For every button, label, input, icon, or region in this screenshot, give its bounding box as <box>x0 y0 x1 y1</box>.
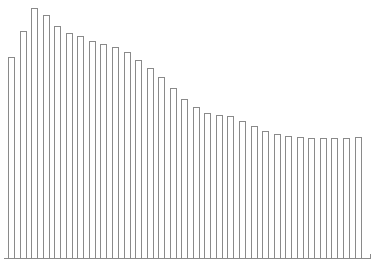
bar <box>20 31 27 258</box>
bar <box>297 137 304 258</box>
bar <box>43 15 50 258</box>
bar <box>331 138 338 258</box>
bar <box>251 126 258 258</box>
bar <box>8 57 15 258</box>
bar <box>355 137 362 258</box>
bar <box>77 36 84 258</box>
bar <box>54 26 61 258</box>
bar <box>308 138 315 258</box>
x-axis-baseline <box>4 258 370 259</box>
bar <box>193 107 200 258</box>
bar <box>100 44 107 258</box>
bar <box>66 33 73 258</box>
bar <box>204 113 211 258</box>
bar <box>285 136 292 258</box>
bar <box>112 47 119 258</box>
bar <box>262 131 269 258</box>
bar <box>31 8 38 258</box>
bar <box>320 138 327 258</box>
bar <box>274 134 281 258</box>
bar <box>147 68 154 258</box>
bar <box>135 60 142 258</box>
bar-chart <box>0 0 379 263</box>
bar <box>89 41 96 258</box>
bar <box>239 121 246 258</box>
bar <box>158 77 165 258</box>
bar <box>216 115 223 258</box>
bar <box>343 138 350 258</box>
x-axis-end-tick <box>370 254 371 259</box>
bar <box>227 116 234 258</box>
bar <box>124 52 131 258</box>
bar <box>181 99 188 258</box>
bar <box>170 88 177 258</box>
